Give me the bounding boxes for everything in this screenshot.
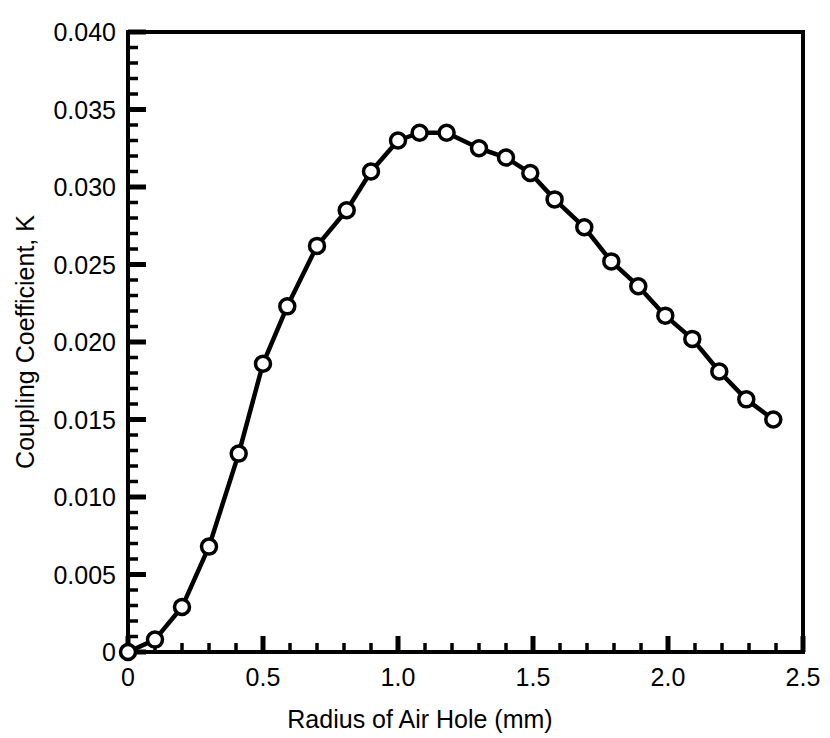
data-point-marker bbox=[310, 238, 325, 253]
data-point-marker bbox=[148, 632, 163, 647]
data-point-marker bbox=[391, 133, 406, 148]
x-tick-label: 0.5 bbox=[246, 663, 281, 691]
data-point-marker bbox=[631, 279, 646, 294]
y-tick-label: 0 bbox=[102, 638, 116, 666]
y-tick-label: 0.010 bbox=[53, 483, 116, 511]
data-point-marker bbox=[547, 192, 562, 207]
x-tick-label: 1.0 bbox=[381, 663, 416, 691]
data-point-marker bbox=[658, 308, 673, 323]
data-point-marker bbox=[412, 125, 427, 140]
x-tick-label: 1.5 bbox=[516, 663, 551, 691]
data-point-marker bbox=[604, 254, 619, 269]
data-point-marker bbox=[499, 150, 514, 165]
data-point-marker bbox=[256, 356, 271, 371]
data-point-marker bbox=[202, 539, 217, 554]
figure-background bbox=[0, 0, 830, 738]
y-tick-label: 0.020 bbox=[53, 328, 116, 356]
y-axis-title: Coupling Coefficient, K bbox=[11, 215, 39, 469]
data-point-marker bbox=[364, 164, 379, 179]
data-point-marker bbox=[577, 220, 592, 235]
data-point-marker bbox=[472, 141, 487, 156]
y-tick-label: 0.025 bbox=[53, 251, 116, 279]
line-chart: 00.51.01.52.02.5 00.0050.0100.0150.0200.… bbox=[0, 0, 830, 738]
data-point-marker bbox=[280, 299, 295, 314]
y-tick-label: 0.005 bbox=[53, 561, 116, 589]
data-point-marker bbox=[439, 125, 454, 140]
y-tick-label: 0.030 bbox=[53, 173, 116, 201]
data-point-marker bbox=[739, 392, 754, 407]
data-point-marker bbox=[121, 645, 136, 660]
data-point-marker bbox=[523, 166, 538, 181]
data-point-marker bbox=[339, 203, 354, 218]
x-axis-title: Radius of Air Hole (mm) bbox=[287, 705, 552, 733]
data-point-marker bbox=[712, 364, 727, 379]
y-tick-label: 0.040 bbox=[53, 18, 116, 46]
x-tick-label: 2.5 bbox=[786, 663, 821, 691]
y-tick-label: 0.035 bbox=[53, 96, 116, 124]
x-tick-label: 0 bbox=[121, 663, 135, 691]
y-tick-label: 0.015 bbox=[53, 406, 116, 434]
y-axis-tick-labels: 00.0050.0100.0150.0200.0250.0300.0350.04… bbox=[53, 18, 116, 666]
data-point-marker bbox=[231, 446, 246, 461]
data-point-marker bbox=[175, 600, 190, 615]
chart-figure: 00.51.01.52.02.5 00.0050.0100.0150.0200.… bbox=[0, 0, 830, 738]
data-point-marker bbox=[766, 412, 781, 427]
data-point-marker bbox=[685, 331, 700, 346]
x-tick-label: 2.0 bbox=[651, 663, 686, 691]
